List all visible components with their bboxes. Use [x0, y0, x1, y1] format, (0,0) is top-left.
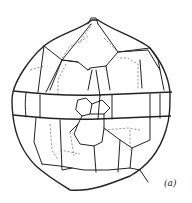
plate-boundary [76, 98, 110, 116]
cingulum-lower [13, 115, 171, 119]
panel-label: (a) [164, 178, 176, 188]
plate-boundary [42, 164, 148, 182]
cingulum-upper [13, 91, 172, 95]
plate-boundary [25, 93, 160, 119]
outer-outline [12, 20, 170, 190]
hidden-plate-boundary [30, 24, 138, 94]
plate-boundary [44, 24, 160, 96]
specimen-drawing [0, 0, 192, 203]
plate-boundary [38, 46, 164, 92]
apical-horn [88, 18, 98, 24]
